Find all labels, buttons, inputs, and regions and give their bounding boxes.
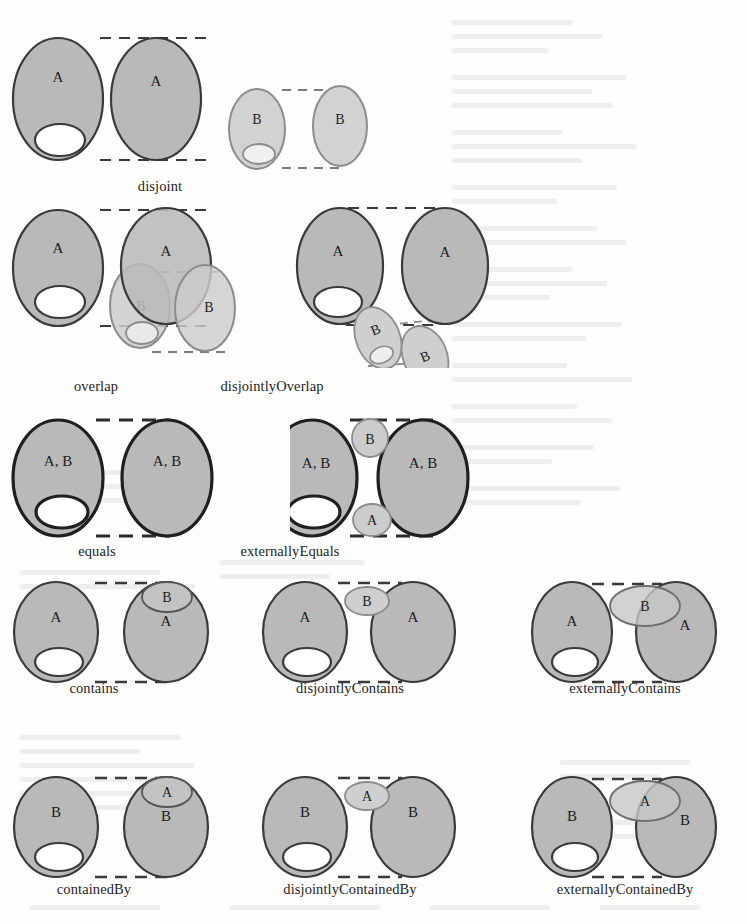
region-a-right-solid: A bbox=[402, 208, 488, 324]
region-b-left-with-hole: B bbox=[263, 777, 347, 877]
region-a-right-label: A bbox=[151, 73, 162, 89]
region-ab-right-solid: A, B bbox=[122, 420, 212, 536]
straddling-region-a: A bbox=[610, 781, 680, 821]
region-ab-left-with-hole: A, B bbox=[13, 420, 103, 536]
panel-contains: A A B bbox=[0, 570, 250, 690]
caption-externally-contained-by: externallyContainedBy bbox=[557, 881, 694, 898]
region-b-right-solid: B bbox=[175, 265, 235, 351]
topological-relations-figure: A A B B A bbox=[0, 0, 747, 924]
region-b-right-label: B bbox=[335, 112, 344, 127]
region-b-right-label: B bbox=[680, 812, 690, 828]
inner-region-a: A bbox=[142, 777, 192, 807]
region-a-left-with-hole: A bbox=[14, 582, 98, 682]
caption-disjointly-contained-by: disjointlyContainedBy bbox=[283, 881, 416, 898]
caption-disjointly-overlap: disjointlyOverlap bbox=[220, 378, 323, 395]
panel-disjointly-overlap: A A B B bbox=[290, 198, 590, 368]
panel-overlap: A B A B bbox=[0, 198, 300, 368]
panel-disjointly-contained-by: B B A bbox=[260, 765, 520, 885]
region-hole bbox=[314, 287, 362, 317]
caption-externally-equals: externallyEquals bbox=[240, 543, 339, 560]
satellite-a-label: A bbox=[367, 513, 378, 528]
straddling-region-b-label: B bbox=[640, 599, 649, 614]
panel-externally-contains: A A B bbox=[530, 570, 747, 690]
region-b-left-label: B bbox=[51, 804, 61, 820]
region-b-right-label: B bbox=[204, 300, 213, 315]
region-a-right-solid: A bbox=[111, 38, 201, 160]
region-b-left-with-hole: B bbox=[14, 777, 98, 877]
satellite-region-b: B bbox=[345, 587, 389, 615]
region-hole bbox=[283, 843, 331, 871]
region-b-left-label: B bbox=[300, 804, 310, 820]
inner-region-b: B bbox=[142, 582, 192, 612]
region-a-left-with-hole: A bbox=[263, 582, 347, 682]
region-ab-right-label: A, B bbox=[153, 453, 181, 469]
region-hole bbox=[243, 144, 275, 164]
region-a-right-label: A bbox=[161, 243, 172, 259]
region-b-right-label: B bbox=[161, 808, 171, 824]
region-hole bbox=[35, 843, 83, 871]
region-hole bbox=[283, 648, 331, 676]
region-ab-left-label: A, B bbox=[44, 453, 72, 469]
panel-disjoint: A A B B bbox=[0, 20, 420, 180]
region-a-left-label: A bbox=[567, 613, 578, 629]
caption-disjointly-contains: disjointlyContains bbox=[296, 680, 404, 697]
caption-overlap: overlap bbox=[74, 378, 118, 395]
region-b-right-solid: B bbox=[313, 86, 367, 166]
region-hole bbox=[35, 124, 85, 156]
region-b-right-label: B bbox=[408, 804, 418, 820]
region-hole bbox=[35, 286, 85, 318]
region-a-left-label: A bbox=[53, 240, 64, 256]
panel-contained-by: B B A bbox=[0, 765, 250, 885]
region-a-right-label: A bbox=[161, 613, 172, 629]
region-a-right-label: A bbox=[440, 244, 451, 260]
region-ab-left-with-hole: A, B bbox=[290, 420, 357, 536]
straddling-region-b: B bbox=[610, 586, 680, 626]
satellite-b-label: B bbox=[365, 432, 374, 447]
region-hole bbox=[126, 322, 158, 344]
region-ab-left-label: A, B bbox=[302, 455, 330, 471]
panel-externally-equals: A, B A, B B A bbox=[290, 400, 590, 540]
caption-equals: equals bbox=[78, 543, 116, 560]
region-b-right-solid: B A bbox=[124, 777, 208, 877]
region-a-left-label: A bbox=[300, 609, 311, 625]
satellite-a-bottom: A bbox=[353, 504, 391, 536]
region-b-left-with-hole: B bbox=[229, 89, 285, 169]
inner-region-b-label: B bbox=[162, 590, 171, 605]
region-a-right-label: A bbox=[680, 617, 691, 633]
region-a-right-solid: A B bbox=[124, 582, 208, 682]
satellite-region-a-label: A bbox=[362, 789, 373, 804]
region-a-left-with-hole: A bbox=[13, 38, 103, 160]
caption-disjoint: disjoint bbox=[138, 178, 182, 195]
satellite-b-top: B bbox=[352, 419, 388, 457]
region-hole bbox=[552, 843, 598, 871]
region-b-left-label: B bbox=[252, 112, 261, 127]
region-a-right-label: A bbox=[408, 609, 419, 625]
region-a-left-with-hole: A bbox=[532, 582, 612, 682]
region-b-left-label: B bbox=[567, 808, 577, 824]
region-ab-right-label: A, B bbox=[409, 455, 437, 471]
region-hole bbox=[35, 648, 83, 676]
satellite-region-b-label: B bbox=[362, 594, 371, 609]
region-hole bbox=[36, 496, 88, 528]
caption-contains: contains bbox=[69, 680, 118, 697]
panel-externally-contained-by: B B A bbox=[530, 765, 747, 885]
region-hole bbox=[552, 648, 598, 676]
region-b-right-solid: B bbox=[393, 319, 457, 368]
region-hole bbox=[290, 496, 340, 528]
region-a-left-label: A bbox=[51, 609, 62, 625]
caption-externally-contains: externallyContains bbox=[569, 680, 680, 697]
region-b-left-with-hole: B bbox=[532, 777, 612, 877]
straddling-region-a-label: A bbox=[640, 794, 651, 809]
panel-equals: A, B A, B bbox=[0, 400, 300, 540]
region-a-left-with-hole: A bbox=[13, 210, 103, 326]
region-a-left-label: A bbox=[333, 243, 344, 259]
caption-contained-by: containedBy bbox=[57, 881, 131, 898]
satellite-region-a: A bbox=[345, 782, 389, 810]
panel-disjointly-contains: A A B bbox=[260, 570, 520, 690]
region-a-left-label: A bbox=[53, 69, 64, 85]
inner-region-a-label: A bbox=[162, 785, 173, 800]
